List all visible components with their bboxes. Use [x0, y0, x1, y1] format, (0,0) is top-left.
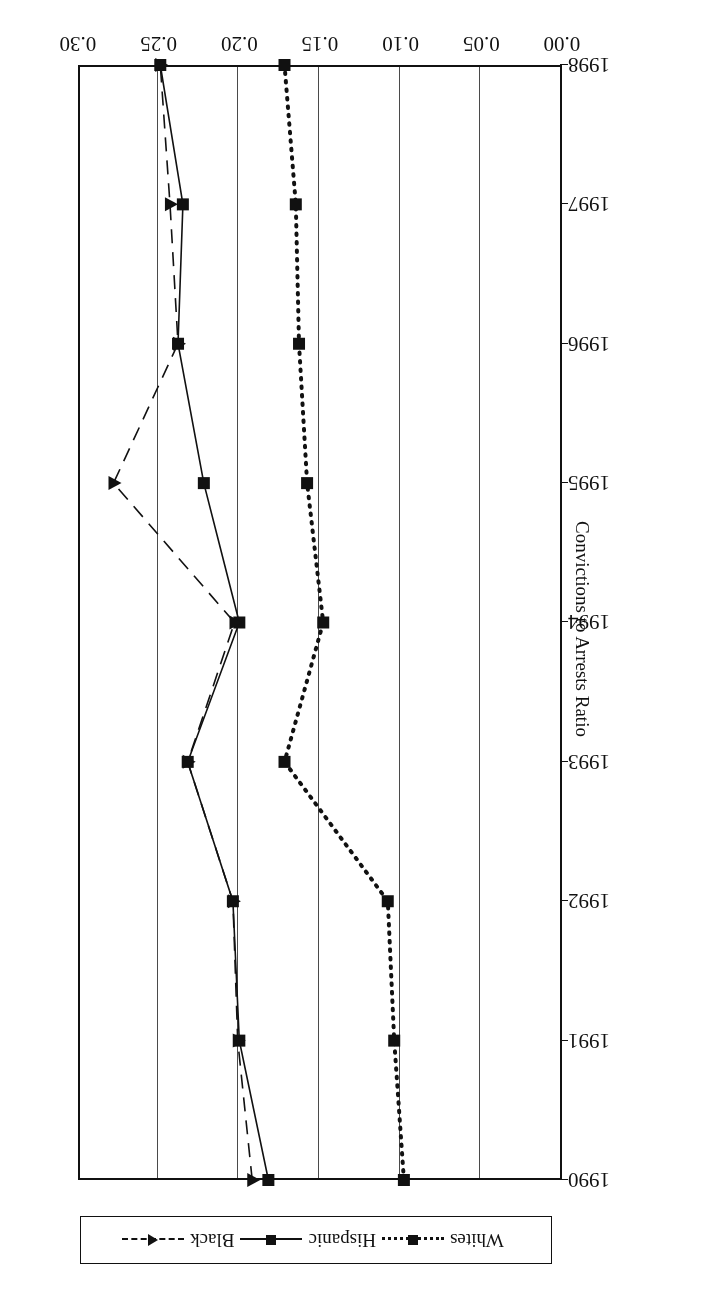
- value-axis-tick: 0.30: [60, 31, 97, 56]
- square-marker-icon: [408, 1235, 418, 1245]
- data-point-black: [247, 1173, 260, 1187]
- year-axis-tick-mark: [560, 64, 568, 65]
- legend-item-hispanic: Hispanic: [240, 1229, 382, 1251]
- year-axis-tick-mark: [560, 482, 568, 483]
- value-axis-tick: 0.25: [140, 31, 177, 56]
- legend-sample-hispanic: [240, 1231, 302, 1249]
- year-axis-tick-mark: [560, 343, 568, 344]
- value-axis-tick: 0.10: [382, 31, 419, 56]
- legend-sample-black: [122, 1231, 184, 1249]
- legend-label: Whites: [444, 1229, 510, 1251]
- data-point-whites: [317, 617, 329, 629]
- value-axis-tick: 0.20: [221, 31, 258, 56]
- series-layer: [78, 65, 562, 1180]
- chart-legend: WhitesHispanicBlack: [80, 1216, 552, 1264]
- year-axis-tick-mark: [560, 900, 568, 901]
- year-axis-tick-mark: [560, 622, 568, 623]
- legend-item-black: Black: [122, 1229, 240, 1251]
- data-point-black: [165, 197, 178, 211]
- data-point-whites: [388, 1035, 400, 1047]
- year-axis-tick-mark: [560, 203, 568, 204]
- data-point-whites: [301, 477, 313, 489]
- data-point-whites: [382, 895, 394, 907]
- data-point-hispanic: [262, 1174, 274, 1186]
- data-point-whites: [398, 1174, 410, 1186]
- rotated-figure-wrapper: Drug Offenses 0.000.050.100.150.200.250.…: [0, 0, 702, 1300]
- legend-sample-whites: [382, 1231, 444, 1249]
- year-axis-tick: 1990: [568, 1168, 610, 1193]
- chart-figure: Drug Offenses 0.000.050.100.150.200.250.…: [0, 0, 702, 1300]
- legend-label: Black: [184, 1229, 240, 1251]
- value-axis-title: Convictions to Arrests Ratio: [571, 449, 593, 809]
- data-point-whites: [293, 338, 305, 350]
- data-point-whites: [279, 59, 291, 71]
- year-axis-tick: 1991: [568, 1028, 610, 1053]
- figure-stage: Drug Offenses 0.000.050.100.150.200.250.…: [0, 0, 702, 1300]
- data-point-hispanic: [198, 477, 210, 489]
- series-line-hispanic: [160, 65, 268, 1180]
- year-axis-tick-mark: [560, 1179, 568, 1180]
- year-axis-tick-mark: [560, 1040, 568, 1041]
- year-axis-tick: 1998: [568, 53, 610, 78]
- year-axis-tick-mark: [560, 761, 568, 762]
- year-axis-tick: 1996: [568, 331, 610, 356]
- triangle-marker-icon: [148, 1234, 158, 1246]
- value-axis-tick: 0.15: [302, 31, 339, 56]
- value-axis-tick: 0.05: [463, 31, 500, 56]
- square-marker-icon: [266, 1235, 276, 1245]
- data-point-hispanic: [177, 198, 189, 210]
- legend-label: Hispanic: [302, 1229, 382, 1251]
- year-axis-tick: 1997: [568, 192, 610, 217]
- data-point-whites: [290, 198, 302, 210]
- value-axis-tick-labels: 0.000.050.100.150.200.250.30: [78, 16, 562, 56]
- year-axis-tick: 1992: [568, 889, 610, 914]
- legend-item-whites: Whites: [382, 1229, 510, 1251]
- series-line-whites: [285, 65, 404, 1180]
- data-point-whites: [279, 756, 291, 768]
